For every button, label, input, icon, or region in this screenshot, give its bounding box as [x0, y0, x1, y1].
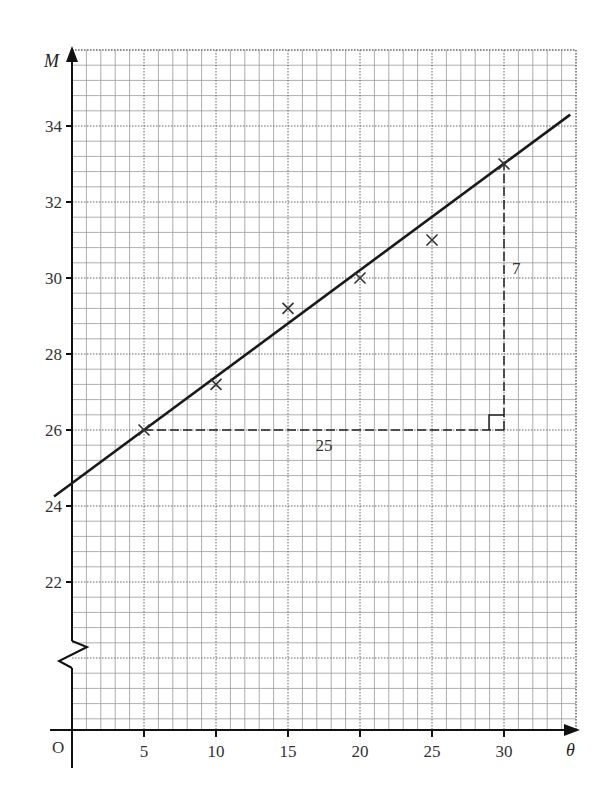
y-tick-label: 24	[45, 497, 63, 516]
x-tick-label: 30	[496, 742, 513, 761]
x-tick-label: 20	[352, 742, 369, 761]
y-tick-label: 34	[45, 117, 63, 136]
gradient-triangle: 257	[144, 164, 521, 455]
y-tick-label: 28	[45, 345, 62, 364]
origin-label: O	[52, 738, 64, 757]
y-tick-label: 22	[45, 573, 62, 592]
minor-grid	[72, 50, 576, 730]
major-grid	[72, 50, 576, 730]
x-tick-label: 15	[280, 742, 297, 761]
horizontal-change-label: 25	[316, 436, 333, 455]
y-axis-label: M	[43, 51, 60, 71]
right-angle-marker	[489, 415, 504, 430]
scatter-chart: 5101520253022242628303234 257 M θ O	[0, 0, 603, 806]
x-tick-label: 25	[424, 742, 441, 761]
x-axis-label: θ	[566, 740, 575, 760]
vertical-change-label: 7	[512, 259, 521, 278]
x-axis-arrow-icon	[564, 724, 580, 736]
x-tick-label: 5	[140, 742, 149, 761]
axis-break-zigzag	[59, 641, 87, 668]
y-tick-label: 26	[45, 421, 62, 440]
y-tick-label: 30	[45, 269, 62, 288]
y-tick-label: 32	[45, 193, 62, 212]
x-tick-label: 10	[208, 742, 225, 761]
y-axis-arrow-icon	[66, 46, 78, 62]
